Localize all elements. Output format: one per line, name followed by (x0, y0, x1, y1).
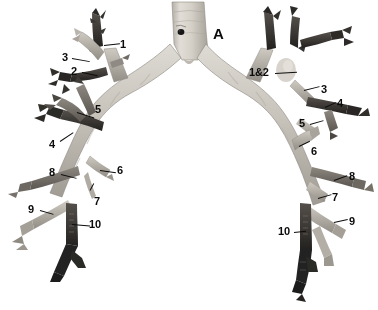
label-right-10: 10 (278, 226, 290, 237)
label-right-6: 6 (311, 146, 317, 157)
label-left-3: 3 (62, 52, 68, 63)
label-left-1: 1 (120, 39, 126, 50)
specimen-photograph (0, 0, 378, 310)
label-right-3: 3 (321, 84, 327, 95)
label-left-9: 9 (28, 204, 34, 215)
label-left-10: 10 (89, 219, 101, 230)
label-trachea-A: A (213, 26, 224, 41)
label-left-7: 7 (94, 196, 100, 207)
label-right-1and2: 1&2 (249, 67, 269, 78)
label-left-6: 6 (117, 165, 123, 176)
label-right-9: 9 (349, 216, 355, 227)
label-right-8: 8 (349, 171, 355, 182)
label-left-5: 5 (95, 104, 101, 115)
label-left-2: 2 (71, 66, 77, 77)
label-right-5: 5 (299, 118, 305, 129)
label-left-4: 4 (49, 139, 55, 150)
label-left-8: 8 (49, 167, 55, 178)
label-right-7: 7 (332, 192, 338, 203)
label-right-4: 4 (337, 98, 343, 109)
bronchial-tree-figure: A 1 3 2 5 4 8 6 7 9 10 1&2 3 4 5 6 8 7 9… (0, 0, 378, 310)
